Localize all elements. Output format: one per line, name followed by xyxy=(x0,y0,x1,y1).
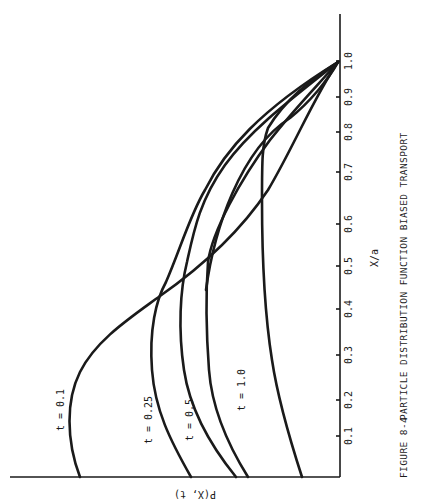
tick-label: 0.9 xyxy=(343,88,354,106)
tick-label: 1.0 xyxy=(343,52,354,70)
curve-t-0.25 xyxy=(151,62,338,477)
curve-t-0.5 xyxy=(180,62,338,477)
chart: 0.1 0.2 0.3 0.4 0.5 0.6 0.7 0.8 0.9 1.0 … xyxy=(0,0,422,502)
curve-t-1.0 xyxy=(207,62,338,477)
curve-label-t-0.25: t = 0.25 xyxy=(143,396,154,444)
tick-label: 0.3 xyxy=(343,346,354,364)
tick-label: 0.6 xyxy=(343,215,354,233)
curve-unlabeled xyxy=(262,62,338,477)
tick-label: 0.1 xyxy=(343,427,354,445)
curve-labels: t = 0.1 t = 0.25 t = 0.5 t = 1.0 xyxy=(55,369,247,444)
curve-label-t-1.0: t = 1.0 xyxy=(236,369,247,411)
tick-label: 0.8 xyxy=(343,123,354,141)
curves xyxy=(70,62,339,477)
x-tick-labels: 0.1 0.2 0.3 0.4 0.5 0.6 0.7 0.8 0.9 1.0 xyxy=(343,52,354,445)
tick-label: 0.4 xyxy=(343,300,354,318)
x-axis-title: X/a xyxy=(369,249,380,267)
tick-label: 0.7 xyxy=(343,163,354,181)
curve-label-t-0.5: t = 0.5 xyxy=(184,399,195,441)
curve-t-0.1 xyxy=(70,62,339,477)
figure-number: FIGURE 8-4 xyxy=(398,417,409,478)
tick-label: 0.2 xyxy=(343,391,354,409)
y-axis-title: P(X, t) xyxy=(174,489,216,500)
figure-caption: PARTICLE DISTRIBUTION FUNCTION BIASED TR… xyxy=(398,132,409,420)
tick-label: 0.5 xyxy=(343,257,354,275)
curve-label-t-0.1: t = 0.1 xyxy=(55,389,66,431)
